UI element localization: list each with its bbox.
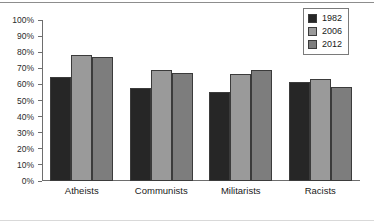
bar[interactable] [71, 55, 92, 181]
legend-label: 2006 [322, 25, 342, 38]
bar[interactable] [331, 87, 352, 181]
top-divider-rule [0, 2, 374, 3]
bar[interactable] [310, 79, 331, 181]
legend-label: 2012 [322, 38, 342, 51]
y-axis-tick-label: 90% [17, 31, 34, 41]
chart-legend: 198220062012 [303, 8, 349, 55]
bar-chart-figure: 100%90%80%70%60%50%40%30%20%10%0% Atheis… [0, 0, 374, 223]
bar-group [50, 20, 113, 181]
y-axis-tick: 50% [0, 96, 42, 106]
y-axis-tick-label: 60% [17, 79, 34, 89]
y-axis-tick: 80% [0, 47, 42, 57]
legend-swatch-icon [308, 40, 317, 49]
y-axis-tick-label: 10% [17, 160, 34, 170]
legend-swatch-icon [308, 27, 317, 36]
legend-label: 1982 [322, 12, 342, 25]
y-axis-tick-label: 70% [17, 63, 34, 73]
legend-item[interactable]: 2006 [308, 25, 342, 38]
y-axis-tick: 100% [0, 15, 42, 25]
bar-group [130, 20, 193, 181]
bar[interactable] [230, 74, 251, 181]
legend-item[interactable]: 1982 [308, 12, 342, 25]
y-axis-tick: 10% [0, 160, 42, 170]
bar[interactable] [50, 77, 71, 181]
bar[interactable] [92, 57, 113, 181]
y-axis-tick: 60% [0, 79, 42, 89]
y-axis-tick-label: 30% [17, 128, 34, 138]
y-axis-tick: 70% [0, 63, 42, 73]
x-axis-category-label: Racists [269, 185, 372, 196]
legend-item[interactable]: 2012 [308, 38, 342, 51]
bar[interactable] [209, 92, 230, 181]
y-axis-tick-label: 100% [12, 15, 34, 25]
bar-group [209, 20, 272, 181]
legend-swatch-icon [308, 14, 317, 23]
bar[interactable] [172, 73, 193, 181]
y-axis-tick-label: 80% [17, 47, 34, 57]
y-axis-tick-label: 20% [17, 144, 34, 154]
y-axis-tick: 90% [0, 31, 42, 41]
y-axis-tick: 30% [0, 128, 42, 138]
bar[interactable] [130, 88, 151, 181]
y-axis-tick-label: 40% [17, 112, 34, 122]
bar[interactable] [251, 70, 272, 181]
y-axis-tick-label: 50% [17, 96, 34, 106]
bar[interactable] [151, 70, 172, 181]
y-axis-tick: 40% [0, 112, 42, 122]
bottom-divider-rule [0, 220, 374, 221]
bar[interactable] [289, 82, 310, 181]
y-axis-tick: 20% [0, 144, 42, 154]
